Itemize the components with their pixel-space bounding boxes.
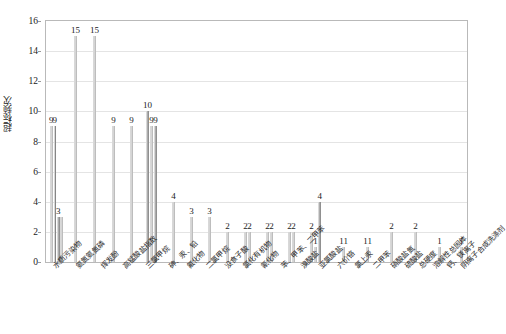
bar xyxy=(130,126,133,262)
y-tick-mark xyxy=(38,111,41,112)
y-tick-mark xyxy=(38,172,41,173)
bar xyxy=(50,126,53,262)
bar-value-label: 3 xyxy=(56,207,61,216)
y-tick-label: 14 xyxy=(29,46,39,56)
y-tick-label: 10 xyxy=(29,106,39,116)
y-tick-mark xyxy=(38,142,41,143)
bar-value-label: 9 xyxy=(153,116,158,125)
bar-value-label: 2 xyxy=(225,222,230,231)
bar xyxy=(74,36,77,262)
bar-value-label: 9 xyxy=(129,116,134,125)
y-tick-mark xyxy=(38,262,41,263)
bar xyxy=(208,217,211,262)
y-tick-mark xyxy=(38,51,41,52)
bar xyxy=(172,202,175,262)
y-axis-title: 超标频次 xyxy=(2,96,18,132)
y-tick-label: 12 xyxy=(29,76,39,86)
bar-value-label: 9 xyxy=(53,116,58,125)
bar-value-label: 3 xyxy=(207,207,212,216)
bars-container: 9931515991099433222222221411112211 xyxy=(46,21,467,262)
bar-value-label: 2 xyxy=(269,222,274,231)
y-tick-mark xyxy=(38,202,41,203)
bar-value-label: 11 xyxy=(363,237,372,246)
bar-value-label: 11 xyxy=(339,237,348,246)
y-tick-label: 16 xyxy=(29,16,39,26)
y-tick-mark xyxy=(38,81,41,82)
bar-value-label: 4 xyxy=(171,192,176,201)
y-axis-ticks: 0246810121416 xyxy=(20,20,41,263)
x-axis-labels: 水质污染物氨氮氨氮磷挥发酚高锰酸盐指数三氯甲烷砷、汞、铅氟化物二氯甲烷没食子酸氯… xyxy=(0,265,486,334)
bar-value-label: 1 xyxy=(437,237,442,246)
bar-value-label: 10 xyxy=(143,101,152,110)
bar-value-label: 3 xyxy=(189,207,194,216)
bar-value-label: 9 xyxy=(111,116,116,125)
y-tick-mark xyxy=(38,232,41,233)
bar-value-label: 15 xyxy=(90,26,99,35)
bar-value-label: 2 xyxy=(413,222,418,231)
bar-value-label: 4 xyxy=(317,192,322,201)
y-tick-mark xyxy=(38,21,41,22)
bar xyxy=(54,126,57,262)
bar-value-label: 2 xyxy=(291,222,296,231)
bar-value-label: 15 xyxy=(71,26,80,35)
bar xyxy=(112,126,115,262)
bar xyxy=(93,36,96,262)
bar-value-label: 2 xyxy=(247,222,252,231)
bar-value-label: 2 xyxy=(389,222,394,231)
